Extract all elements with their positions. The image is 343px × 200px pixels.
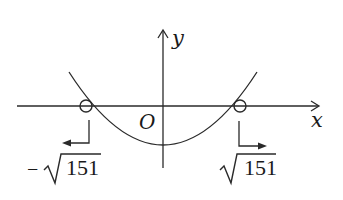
right-root-radicand: 151 xyxy=(244,157,277,179)
left-root-minus-sign: − xyxy=(27,158,38,181)
left-interval-arrow xyxy=(62,120,89,147)
right-interval-arrow xyxy=(239,121,267,150)
left-root-radicand: 151 xyxy=(66,157,99,179)
arrow-left-icon xyxy=(62,140,71,147)
diagram-canvas: y x O − 151 151 xyxy=(0,0,343,200)
y-axis-label: y xyxy=(172,28,184,49)
arrow-right-icon xyxy=(258,143,267,150)
x-axis xyxy=(17,101,319,111)
origin-label: O xyxy=(139,112,155,132)
x-axis-label: x xyxy=(311,110,323,131)
y-axis xyxy=(158,30,168,168)
